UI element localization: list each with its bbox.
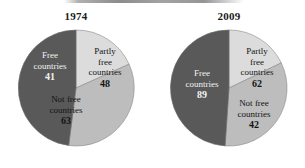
pie-svg-2009 [169, 28, 289, 148]
panel-year-label-1974: 1974 [0, 10, 152, 22]
pie-slice-1974-free [18, 30, 76, 146]
pie-slice-2009-free [170, 30, 229, 146]
pie-charts-row: 1974 Free countries 41 Partly free count… [0, 0, 305, 168]
pie-svg-1974 [16, 28, 136, 148]
pie-chart-1974: Free countries 41 Partly free countries … [16, 28, 136, 148]
pie-chart-2009: Free countries 89 Partly free countries … [169, 28, 289, 148]
panel-year-label-2009: 2009 [153, 10, 305, 22]
pie-panel-1974: 1974 Free countries 41 Partly free count… [0, 0, 152, 168]
pie-panel-2009: 2009 Free countries 89 Partly free count… [153, 0, 305, 168]
